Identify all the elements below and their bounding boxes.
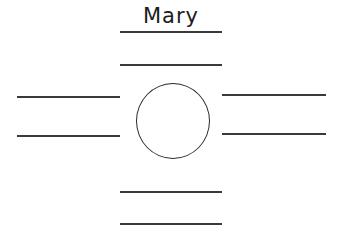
top-answer-line bbox=[120, 64, 222, 66]
center-circle bbox=[136, 83, 210, 159]
character-web-diagram: Mary bbox=[0, 0, 341, 233]
bottom-answer-line-2 bbox=[120, 223, 222, 225]
right-answer-line-2 bbox=[222, 133, 326, 135]
diagram-title: Mary bbox=[120, 4, 222, 28]
right-answer-line-1 bbox=[222, 94, 326, 96]
left-answer-line-1 bbox=[17, 96, 120, 98]
title-underline bbox=[120, 31, 222, 33]
left-answer-line-2 bbox=[17, 135, 120, 137]
bottom-answer-line-1 bbox=[120, 191, 222, 193]
